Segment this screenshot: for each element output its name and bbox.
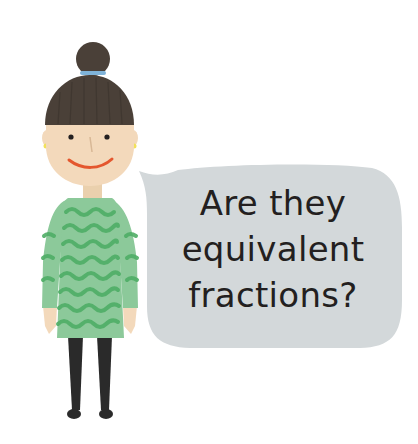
right-eye — [104, 134, 109, 139]
illustration: Are they equivalent fractions? — [0, 0, 418, 444]
left-shoe — [67, 409, 81, 419]
face — [46, 124, 134, 186]
speech-bubble-text: Are they equivalent fractions? — [150, 180, 396, 318]
speech-line-3: fractions? — [150, 272, 396, 318]
left-eye — [68, 134, 73, 139]
speech-line-1: Are they — [150, 180, 396, 226]
head — [42, 42, 138, 186]
hair-bun — [76, 42, 110, 76]
right-shoe — [99, 409, 113, 419]
speech-line-2: equivalent — [150, 226, 396, 272]
hair-band — [80, 71, 106, 75]
legs — [67, 336, 113, 419]
